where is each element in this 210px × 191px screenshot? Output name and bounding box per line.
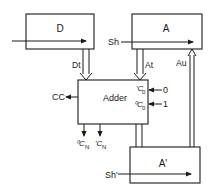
adder-label: Adder <box>103 93 127 103</box>
register-d: D <box>12 14 94 49</box>
register-a-label: A <box>163 23 170 34</box>
carry-n-1-sub: N <box>102 144 106 150</box>
au-label: Au <box>176 58 187 68</box>
register-d-label: D <box>56 23 63 34</box>
at-label: At <box>145 60 154 70</box>
carry-in-0-value: 1 <box>163 99 168 109</box>
register-a-prime: A' Sh' <box>105 147 200 183</box>
bus-at: At <box>134 49 154 80</box>
carry-n-0-label: ⁰C <box>76 139 85 148</box>
adder-block: Adder 'C 0 0 ⁰C 0 1 CC ⁰C N 'C N <box>52 80 168 150</box>
shift-a-label: Sh <box>108 37 119 47</box>
register-a-prime-label: A' <box>159 158 168 169</box>
carry-n-0-sub: N <box>85 144 89 150</box>
carry-in-1-value: 0 <box>163 85 168 95</box>
shift-a-prime-label: Sh' <box>105 170 118 180</box>
adder-block-diagram: D A Sh Dt At Adder 'C 0 0 ⁰C 0 1 <box>0 0 210 191</box>
bus-dt: Dt <box>72 49 92 80</box>
bus-au: Au <box>176 49 196 147</box>
cc-label: CC <box>52 92 65 102</box>
register-a: A Sh <box>108 14 202 49</box>
dt-label: Dt <box>72 60 81 70</box>
